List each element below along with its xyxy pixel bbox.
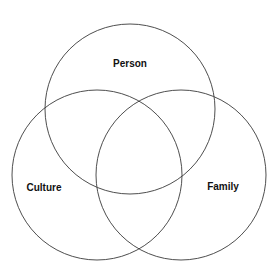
family-label: Family [207,181,239,192]
person-label: Person [113,58,147,69]
person-circle [45,24,215,194]
culture-circle [12,90,182,260]
venn-diagram: Person Culture Family [0,0,277,276]
culture-label: Culture [27,182,62,193]
family-circle [96,90,266,260]
